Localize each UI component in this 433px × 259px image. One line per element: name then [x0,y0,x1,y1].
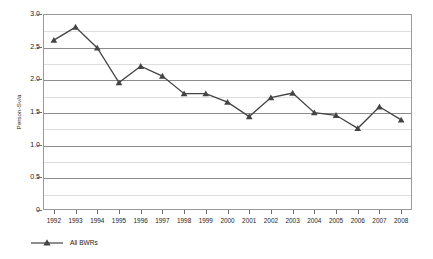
y-axis-tick-mark [37,145,42,146]
x-axis-tick-mark [293,210,294,214]
y-axis-tick-mark [37,14,42,15]
x-axis-tick-mark [97,210,98,214]
data-point-marker [398,117,405,123]
x-axis-tick-mark [249,210,250,214]
x-axis-tick-mark [119,210,120,214]
data-point-marker [72,24,79,30]
x-axis-tick-mark [401,210,402,214]
x-axis-tick-mark [271,210,272,214]
x-axis-tick-mark [206,210,207,214]
series-line-all-bwrs [54,27,401,128]
data-point-marker [137,63,144,69]
x-axis-tick-mark [54,210,55,214]
y-axis-tick-mark [37,177,42,178]
x-axis-tick-mark [141,210,142,214]
x-axis-tick-mark [379,210,380,214]
legend-label-all-bwrs: All BWRs [70,237,98,249]
x-axis-tick-mark [358,210,359,214]
data-series-layer [43,14,412,210]
y-axis-tick-mark [37,112,42,113]
x-axis-tick-mark [314,210,315,214]
legend-marker-all-bwrs [30,237,64,249]
x-axis-tick-mark [162,210,163,214]
x-axis-tick-mark [228,210,229,214]
chart-container: Person-Sv/a 00.51.01.52.02.53.0 All BWRs… [0,0,433,259]
x-axis-tick-mark [184,210,185,214]
chart-legend: All BWRs [30,236,98,250]
y-axis-tick-labels: 00.51.01.52.02.53.0 [20,8,40,212]
x-axis-tick-mark [336,210,337,214]
data-point-marker [50,37,57,43]
data-point-marker [376,104,383,110]
y-axis-tick-mark [37,210,42,211]
data-point-marker [159,73,166,79]
x-axis-tick-mark [76,210,77,214]
x-axis-tick-label: 2008 [381,216,421,225]
data-point-marker [289,90,296,96]
y-axis-tick-mark [37,79,42,80]
y-axis-tick-mark [37,47,42,48]
